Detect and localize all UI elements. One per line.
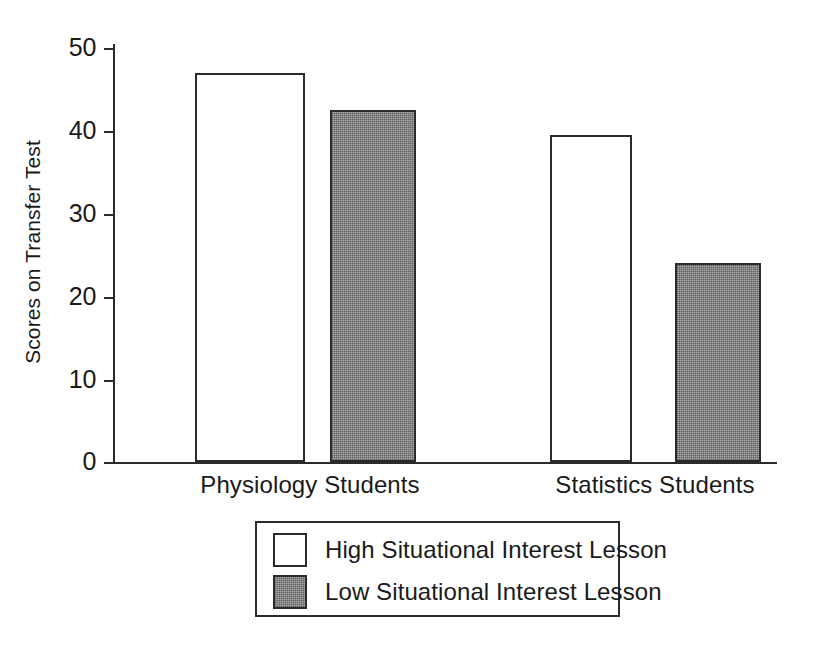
y-tick-label-10: 10 [50, 367, 96, 392]
bar-chart-figure: Scores on Transfer Test 50 40 30 20 10 0… [0, 0, 814, 650]
y-tick-label-50: 50 [50, 35, 96, 60]
y-tick-label-wrap-30: 30 [44, 201, 96, 227]
y-axis-title: Scores on Transfer Test [21, 102, 45, 402]
y-tick-label-0: 0 [50, 449, 96, 474]
x-axis-line [105, 462, 777, 464]
y-tick-label-wrap-0: 0 [44, 449, 96, 475]
legend-label-low-situational-interest: Low Situational Interest Lesson [325, 578, 662, 606]
x-axis-category-label-statistics: Statistics Students [505, 470, 805, 500]
x-axis-category-label-physiology: Physiology Students [160, 470, 460, 500]
bars-layer [113, 40, 775, 462]
bar-physiology-low-situational-interest [330, 110, 416, 462]
legend-label-high-situational-interest: High Situational Interest Lesson [325, 536, 667, 564]
y-tick-label-wrap-50: 50 [44, 35, 96, 61]
legend-swatch-gray-filled-icon [273, 575, 307, 609]
bar-statistics-high-situational-interest [550, 135, 632, 462]
bar-physiology-high-situational-interest [195, 73, 305, 462]
y-tick-label-wrap-10: 10 [44, 367, 96, 393]
bar-statistics-low-situational-interest [675, 263, 761, 462]
legend-entry-high-situational-interest: High Situational Interest Lesson [273, 531, 667, 569]
y-tick-label-wrap-40: 40 [44, 118, 96, 144]
y-tick-label-20: 20 [50, 284, 96, 309]
y-tick-label-40: 40 [50, 118, 96, 143]
legend-swatch-white-outline-icon [273, 533, 307, 567]
y-tick-label-30: 30 [50, 201, 96, 226]
legend: High Situational Interest Lesson Low Sit… [255, 521, 620, 617]
y-tick-label-wrap-20: 20 [44, 284, 96, 310]
legend-entry-low-situational-interest: Low Situational Interest Lesson [273, 573, 662, 611]
